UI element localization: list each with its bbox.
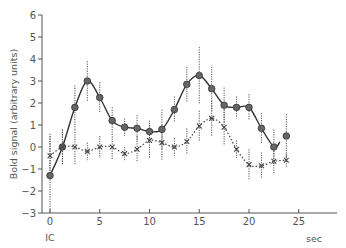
circle-marker [47,172,54,179]
y-tick-label: −3 [21,208,36,219]
circle-marker [258,125,265,132]
y-tick-label: 3 [30,76,36,87]
circle-marker [196,72,203,79]
x-tick-label: 5 [97,216,103,227]
x-tick-label: 15 [193,216,206,227]
circle-marker [184,81,191,88]
y-tick-label: 0 [30,142,36,153]
dotted-series-line [50,118,286,166]
circle-marker [159,126,166,133]
y-tick-label: 4 [30,54,36,65]
circle-marker [96,94,103,101]
y-tick-label: 5 [30,32,36,43]
y-tick-label: 1 [30,120,36,131]
y-axis-label: Bold signal (arbitrary units) [8,49,19,179]
circle-marker [84,78,91,85]
x-tick-label: 25 [292,216,305,227]
data-markers [47,72,290,179]
x-origin-label: IC [45,232,55,243]
axes [42,15,337,213]
circle-marker [221,102,228,109]
y-tick-label: 6 [30,10,36,21]
circle-marker [109,117,116,124]
error-bars [50,47,286,213]
x-tick-label: 20 [243,216,256,227]
circle-marker [72,104,79,111]
series-lines [50,75,286,175]
circle-marker [283,133,290,140]
circle-marker [171,106,178,113]
circle-marker [233,104,240,111]
y-tick-label: −1 [21,164,36,175]
solid-series-line [50,75,280,175]
x-tick-label: 10 [143,216,156,227]
x-axis-label: sec [306,233,322,244]
bold-signal-chart: −3−2−10123456 0510152025 Bold signal (ar… [0,0,346,248]
circle-marker [121,124,128,131]
circle-marker [246,104,253,111]
y-tick-label: 2 [30,98,36,109]
y-ticks: −3−2−10123456 [21,10,42,219]
circle-marker [134,125,141,132]
x-tick-label: 0 [47,216,53,227]
y-tick-label: −2 [21,186,36,197]
x-ticks: 0510152025 [47,209,305,227]
circle-marker [271,144,278,151]
circle-marker [146,128,153,135]
circle-marker [208,85,215,92]
